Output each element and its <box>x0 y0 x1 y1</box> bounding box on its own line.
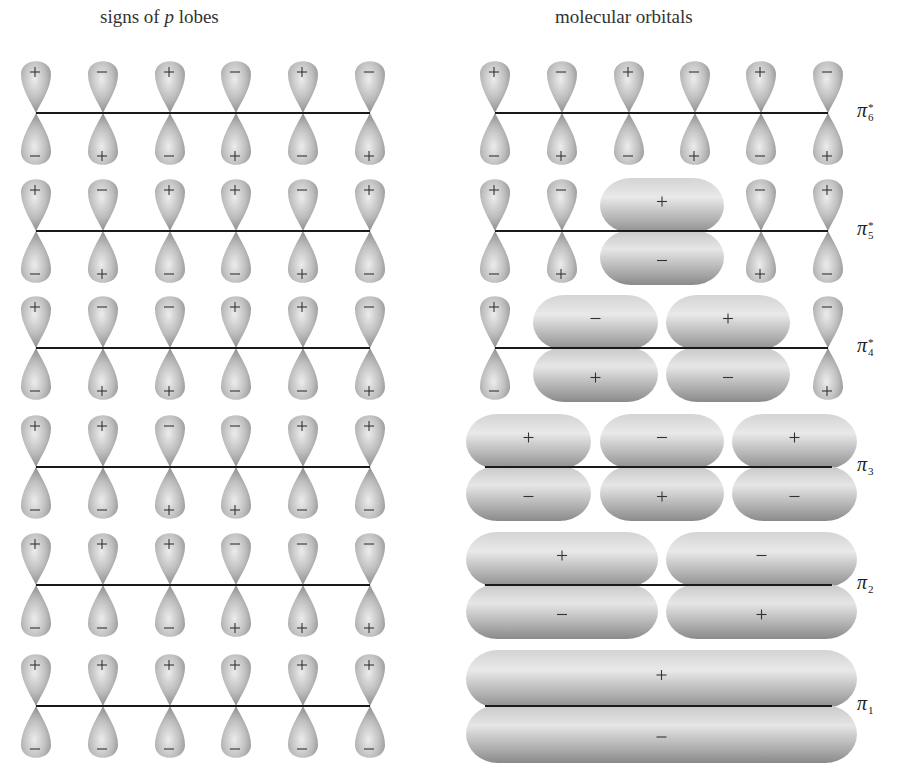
p-lobe-top <box>21 533 51 585</box>
p-lobe-top <box>155 179 185 231</box>
p-lobe-row-π4* <box>21 296 385 399</box>
p-lobe-top <box>21 179 51 231</box>
p-lobe-bottom <box>21 231 51 283</box>
p-lobe-bottom <box>21 706 51 758</box>
p-lobe-top <box>21 61 51 113</box>
mo-lobe <box>533 347 658 402</box>
mo-p-lobe <box>746 231 776 283</box>
mo-p-lobe <box>480 231 510 283</box>
p-lobe-top <box>221 654 251 706</box>
p-lobe-top <box>288 533 318 585</box>
p-lobe-bottom <box>355 585 385 637</box>
mo-lobe <box>600 230 724 285</box>
p-lobe-top <box>88 179 118 231</box>
mo-p-lobe <box>480 179 510 231</box>
p-lobe-top <box>288 61 318 113</box>
molecular-orbitals-panel <box>466 61 857 763</box>
p-lobe-top <box>221 533 251 585</box>
p-lobe-top <box>288 654 318 706</box>
p-lobe-bottom <box>88 585 118 637</box>
p-lobe-bottom <box>355 348 385 400</box>
mo-p-lobe <box>746 61 776 113</box>
mo-p-lobe <box>813 348 843 400</box>
mo-lobe <box>600 178 724 233</box>
mo-p-lobe <box>547 231 577 283</box>
p-lobe-top <box>21 654 51 706</box>
mo-label: π 2 <box>857 571 874 594</box>
p-lobe-top <box>221 61 251 113</box>
mo-lobe <box>533 295 658 350</box>
mo-lobe <box>666 584 857 639</box>
signs-of-p-lobes-panel <box>21 61 385 757</box>
mo-p-lobe <box>813 113 843 165</box>
mo-lobe <box>666 532 857 587</box>
p-lobe-bottom <box>155 113 185 165</box>
mo-label: π 3 <box>857 453 874 476</box>
p-lobe-bottom <box>155 706 185 758</box>
p-lobe-bottom <box>221 467 251 519</box>
p-lobe-bottom <box>21 585 51 637</box>
mo-p-lobe <box>813 179 843 231</box>
p-lobe-bottom <box>355 231 385 283</box>
p-lobe-top <box>155 533 185 585</box>
p-lobe-bottom <box>21 348 51 400</box>
mo-p-lobe <box>480 296 510 348</box>
mo-p-lobe <box>813 296 843 348</box>
mo-p-lobe <box>480 113 510 165</box>
p-lobe-top <box>288 296 318 348</box>
p-lobe-top <box>88 296 118 348</box>
p-lobe-top <box>221 415 251 467</box>
mo-lobe <box>732 414 857 469</box>
p-lobe-top <box>155 415 185 467</box>
p-lobe-top <box>288 179 318 231</box>
p-lobe-top <box>88 415 118 467</box>
mo-p-lobe <box>547 61 577 113</box>
p-lobe-bottom <box>355 706 385 758</box>
mo-lobe <box>466 414 591 469</box>
p-lobe-bottom <box>155 231 185 283</box>
mo-lobe <box>466 705 857 763</box>
p-lobe-top <box>288 415 318 467</box>
p-lobe-top <box>88 533 118 585</box>
mo-row-π5* <box>480 178 843 285</box>
p-lobe-bottom <box>155 348 185 400</box>
mo-p-lobe <box>547 113 577 165</box>
mo-lobe <box>466 650 857 708</box>
mo-lobe <box>666 295 790 350</box>
p-lobe-bottom <box>88 231 118 283</box>
p-lobe-row-π5* <box>21 179 385 282</box>
p-lobe-top <box>155 654 185 706</box>
p-lobe-bottom <box>221 585 251 637</box>
mo-label: π*5 <box>857 217 874 240</box>
p-lobe-top <box>221 296 251 348</box>
mo-lobe <box>466 466 591 521</box>
mo-label: π*4 <box>857 334 874 357</box>
p-lobe-bottom <box>355 113 385 165</box>
p-lobe-top <box>355 533 385 585</box>
mo-p-lobe <box>614 61 644 113</box>
p-lobe-row-π1 <box>21 654 385 757</box>
p-lobe-bottom <box>221 113 251 165</box>
mo-p-lobe <box>746 179 776 231</box>
p-lobe-bottom <box>288 231 318 283</box>
mo-row-π6* <box>480 61 843 164</box>
mo-lobe <box>600 414 724 469</box>
p-lobe-top <box>355 415 385 467</box>
p-lobe-top <box>88 61 118 113</box>
mo-row-π4* <box>480 295 843 402</box>
p-lobe-bottom <box>88 706 118 758</box>
p-lobe-bottom <box>288 113 318 165</box>
p-lobe-bottom <box>221 348 251 400</box>
p-lobe-row-π6* <box>21 61 385 164</box>
mo-label: π 1 <box>857 692 874 715</box>
mo-p-lobe <box>746 113 776 165</box>
p-lobe-top <box>88 654 118 706</box>
p-lobe-top <box>155 296 185 348</box>
mo-lobe <box>666 347 790 402</box>
p-lobe-top <box>355 179 385 231</box>
p-lobe-top <box>21 296 51 348</box>
mo-lobe <box>466 532 658 587</box>
mo-row-π2 <box>466 532 857 639</box>
mo-p-lobe <box>813 231 843 283</box>
mo-p-lobe <box>680 113 710 165</box>
